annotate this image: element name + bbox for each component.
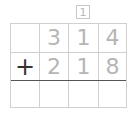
carry-box[interactable]: 1 [76,5,90,19]
answer-cell[interactable] [11,81,40,107]
digit-cell: 8 [99,53,126,80]
empty-cell [11,24,40,52]
addition-grid: 3 1 4 + 2 1 8 [10,23,127,108]
digit-cell: 4 [99,24,126,52]
answer-cell[interactable] [40,81,69,107]
top-number-row: 3 1 4 [11,24,126,53]
carry-digit: 1 [80,7,87,18]
answer-cell[interactable] [69,81,99,107]
digit-cell: 1 [69,53,99,80]
digit-cell: 2 [40,53,69,80]
digit-cell: 1 [69,24,99,52]
bottom-number-row: + 2 1 8 [11,53,126,81]
plus-operator: + [11,53,40,80]
answer-cell[interactable] [99,81,126,107]
digit-cell: 3 [40,24,69,52]
answer-row [11,81,126,107]
